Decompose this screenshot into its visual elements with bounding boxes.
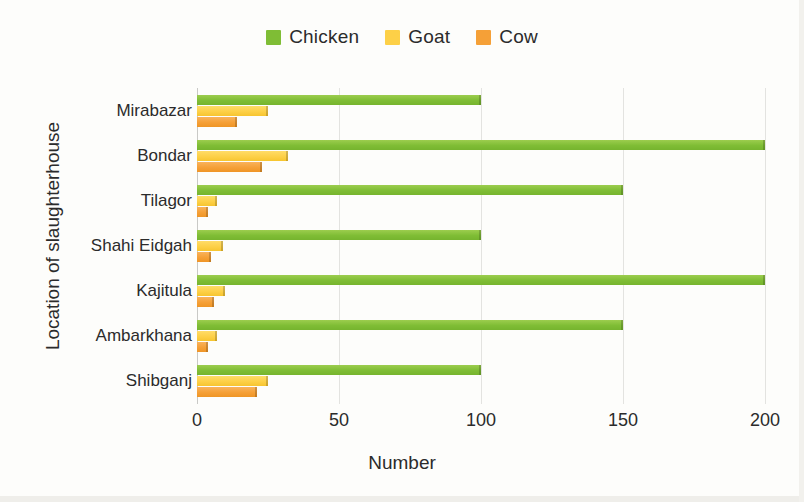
legend-swatch-icon [385,30,400,45]
bar-goat[interactable] [197,196,217,206]
legend-label: Chicken [289,26,359,48]
bar-group [197,223,765,268]
bar-group [197,314,765,359]
scan-edge-bottom [0,496,804,502]
bar-chicken[interactable] [197,365,481,375]
bar-group [197,88,765,133]
bar-goat[interactable] [197,151,288,161]
y-axis-tick-label: Kajitula [70,269,192,314]
x-axis-tick-label: 0 [192,410,202,431]
legend-entry[interactable]: Chicken [266,26,359,48]
bar-cow[interactable] [197,297,214,307]
bar-group [197,178,765,223]
bar-goat[interactable] [197,106,268,116]
scan-edge-right [799,0,804,502]
bar-chart: ChickenGoatCow Location of slaughterhous… [0,0,804,502]
y-axis-tick-labels: MirabazarBondarTilagorShahi EidgahKajitu… [70,88,192,404]
bar-cow[interactable] [197,207,208,217]
bar-goat[interactable] [197,376,268,386]
bar-chicken[interactable] [197,230,481,240]
bar-groups [197,88,765,404]
legend-entry[interactable]: Goat [385,26,450,48]
legend-swatch-icon [266,30,281,45]
bar-cow[interactable] [197,387,257,397]
y-axis-tick-label: Ambarkhana [70,314,192,359]
gridline [765,88,766,404]
y-axis-tick-label: Shahi Eidgah [70,223,192,268]
bar-goat[interactable] [197,331,217,341]
y-axis-title-text: Location of slaughterhouse [42,122,64,350]
y-axis-tick-label: Tilagor [70,178,192,223]
bar-cow[interactable] [197,117,237,127]
x-axis-tick-label: 100 [466,410,496,431]
bar-goat[interactable] [197,241,223,251]
x-axis-tick-labels: 050100150200 [197,410,765,440]
y-axis-tick-label: Mirabazar [70,88,192,133]
bar-chicken[interactable] [197,140,765,150]
bar-chicken[interactable] [197,275,765,285]
bar-cow[interactable] [197,342,208,352]
legend-label: Cow [499,26,538,48]
legend-entry[interactable]: Cow [476,26,538,48]
bar-chicken[interactable] [197,185,623,195]
legend-label: Goat [408,26,450,48]
bar-chicken[interactable] [197,95,481,105]
bar-group [197,133,765,178]
plot-area [197,88,765,404]
bar-goat[interactable] [197,286,225,296]
bar-cow[interactable] [197,162,262,172]
bar-group [197,269,765,314]
y-axis-tick-label: Shibganj [70,359,192,404]
chart-legend: ChickenGoatCow [0,26,804,48]
bar-chicken[interactable] [197,320,623,330]
x-axis-title-text: Number [368,452,436,473]
bar-group [197,359,765,404]
y-axis-tick-label: Bondar [70,133,192,178]
bar-cow[interactable] [197,252,211,262]
x-axis-tick-label: 50 [329,410,349,431]
x-axis-title: Number [0,452,804,474]
x-axis-tick-label: 200 [750,410,780,431]
y-axis-title: Location of slaughterhouse [36,0,70,502]
x-axis-tick-label: 150 [608,410,638,431]
legend-swatch-icon [476,30,491,45]
